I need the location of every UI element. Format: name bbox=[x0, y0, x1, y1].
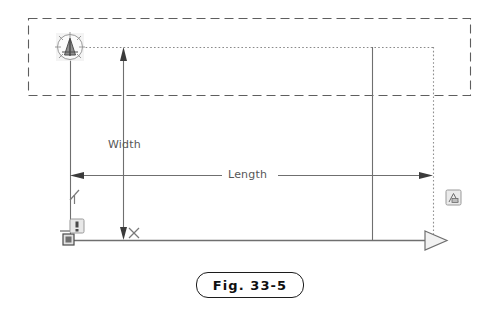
figure-caption: Fig. 33-5 bbox=[196, 272, 304, 298]
baseline-axis bbox=[64, 231, 447, 250]
ucs-north-arrow-icon[interactable] bbox=[55, 32, 85, 61]
arrowhead-right-icon bbox=[419, 172, 433, 179]
width-dimension-label: Width bbox=[108, 139, 141, 150]
figure-caption-text: Fig. 33-5 bbox=[213, 278, 288, 293]
warning-badge-icon[interactable] bbox=[70, 219, 84, 233]
x-axis-tick-marker bbox=[129, 228, 139, 238]
length-dimension-label: Length bbox=[228, 169, 267, 180]
large-open-arrowhead-icon bbox=[425, 231, 447, 250]
arrowhead-left-icon bbox=[70, 172, 84, 179]
arrowhead-up-icon bbox=[120, 47, 127, 61]
cad-diagram-canvas bbox=[0, 0, 499, 314]
object-snap-badge-icon[interactable] bbox=[446, 190, 461, 205]
selection-rectangle[interactable] bbox=[29, 19, 471, 96]
y-axis-tick-marker bbox=[70, 190, 79, 204]
arrowhead-down-icon bbox=[120, 227, 127, 240]
